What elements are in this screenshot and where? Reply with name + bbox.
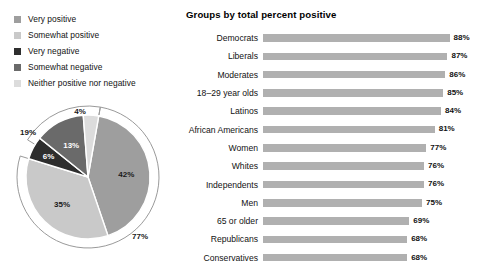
bar-track: 68% [258,249,478,265]
bar-category-label: Latinos [182,106,258,116]
legend-swatch-icon [14,48,21,55]
bar-value-label: 87% [451,51,467,60]
legend-swatch-icon [14,32,21,39]
bar-fill [263,217,409,225]
legend-swatch-icon [14,16,21,23]
bar-category-label: Men [182,198,258,208]
bar-fill [263,181,424,189]
legend-item: Somewhat negative [14,59,182,75]
bar-category-label: Women [182,143,258,153]
bar-track: 76% [258,175,478,193]
legend-item-label: Neither positive nor negative [28,78,136,88]
legend-item-label: Somewhat negative [28,62,102,72]
bar-fill [263,199,422,207]
legend-item: Very positive [14,11,182,27]
bar-value-label: 84% [445,106,461,115]
bar-row: Democrats88% [182,29,478,47]
bar-value-label: 76% [428,179,444,188]
pie-chart-svg: 42%35%6%13%4%77%19% [8,96,180,256]
bar-category-label: Conservatives [182,253,258,263]
bar-row: Moderates86% [182,66,478,84]
bar-category-label: African Americans [182,125,258,135]
bar-category-label: 65 or older [182,216,258,226]
legend-swatch-icon [14,80,21,87]
bar-row: Independents76% [182,175,478,193]
bar-fill [263,254,407,262]
bar-row: Republicans68% [182,230,478,248]
bar-row: Conservatives68% [182,249,478,265]
pie-slice-label: 13% [63,141,79,150]
legend-item: Neither positive nor negative [14,75,182,91]
bar-track: 68% [258,230,478,248]
bar-row: 18–29 year olds85% [182,84,478,102]
bar-track: 88% [258,29,478,47]
bar-fill [263,71,445,79]
bar-track: 77% [258,139,478,157]
bar-category-label: Whites [182,161,258,171]
bar-fill [263,236,407,244]
legend-item-label: Very negative [28,46,79,56]
bar-track: 86% [258,66,478,84]
bar-fill [263,89,443,97]
bar-value-label: 86% [449,70,465,79]
bar-value-label: 75% [426,198,442,207]
pie-slice-label: 35% [54,200,70,209]
pie-chart-panel: Very positive Somewhat positive Very neg… [0,0,182,257]
bar-track: 85% [258,84,478,102]
bar-chart-rows: Democrats88%Liberals87%Moderates86%18–29… [182,29,478,265]
bar-row: Women77% [182,139,478,157]
bar-fill [263,126,435,134]
pie-arc-tick [28,140,35,144]
bar-value-label: 77% [430,143,446,152]
pie-chart: 42%35%6%13%4%77%19% [8,96,180,256]
legend-item: Very negative [14,43,182,59]
bar-track: 76% [258,157,478,175]
bar-track: 81% [258,120,478,138]
bar-value-label: 85% [447,88,463,97]
bar-chart-panel: Groups by total percent positive Democra… [182,0,478,257]
pie-legend: Very positive Somewhat positive Very neg… [14,11,182,91]
bar-row: Latinos84% [182,102,478,120]
bar-category-label: Moderates [182,70,258,80]
bar-row: 65 or older69% [182,212,478,230]
bar-row: African Americans81% [182,120,478,138]
legend-item: Somewhat positive [14,27,182,43]
pie-arc-tick [20,156,28,158]
bar-value-label: 68% [411,253,427,262]
bar-category-label: Democrats [182,33,258,43]
pie-slice-label: 6% [43,152,55,161]
pie-arc-tick [99,107,100,115]
pie-slice-label: 42% [118,170,134,179]
bar-row: Whites76% [182,157,478,175]
bar-track: 69% [258,212,478,230]
bar-fill [263,107,441,115]
bar-chart-title: Groups by total percent positive [186,9,336,20]
bar-value-label: 81% [439,124,455,133]
bar-row: Liberals87% [182,47,478,65]
bar-fill [263,34,450,42]
pie-total-arc-label: 77% [132,232,148,241]
bar-fill [263,162,424,170]
pie-slice-label: 4% [74,107,86,116]
bar-value-label: 76% [428,161,444,170]
bar-category-label: 18–29 year olds [182,88,258,98]
bar-category-label: Independents [182,180,258,190]
pie-total-arc-label: 19% [20,128,36,137]
bar-track: 75% [258,194,478,212]
bar-value-label: 69% [413,216,429,225]
legend-swatch-icon [14,64,21,71]
bar-fill [263,144,426,152]
bar-category-label: Republicans [182,234,258,244]
bar-value-label: 88% [454,33,470,42]
legend-item-label: Very positive [28,14,76,24]
bar-value-label: 68% [411,234,427,243]
bar-track: 84% [258,102,478,120]
legend-item-label: Somewhat positive [28,30,99,40]
bar-track: 87% [258,47,478,65]
bar-category-label: Liberals [182,51,258,61]
bar-fill [263,53,447,61]
bar-row: Men75% [182,194,478,212]
